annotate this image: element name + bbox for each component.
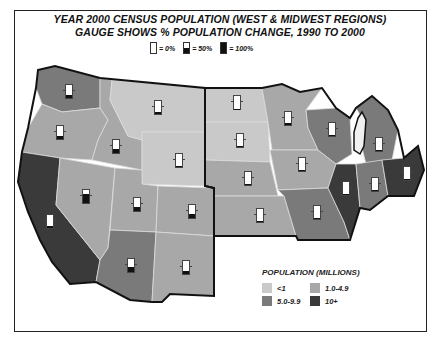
gauge-wy <box>175 153 183 168</box>
gauge-ne <box>244 171 252 186</box>
swatch-10plus <box>310 296 320 306</box>
gauge-nv <box>82 189 90 204</box>
state-ne <box>205 160 278 196</box>
gauge-ks <box>256 208 264 223</box>
legend-title: POPULATION (MILLIONS) <box>262 268 422 277</box>
swatch-5-9.9 <box>262 296 272 306</box>
gauge-in <box>371 177 379 192</box>
gauge-ca <box>46 214 54 229</box>
gauge-sd <box>236 133 244 148</box>
gauge-wi <box>328 122 336 137</box>
gauge-oh <box>403 166 411 181</box>
gauge-il <box>342 181 350 196</box>
state-co <box>156 186 214 236</box>
gauge-or <box>56 125 64 140</box>
gauge-id <box>112 139 120 154</box>
gauge-mt <box>154 100 162 115</box>
population-legend: POPULATION (MILLIONS) <1 1.0-4.9 5.0-9.9… <box>262 268 422 306</box>
legend-item-10plus: 10+ <box>310 296 370 306</box>
state-ks <box>214 196 296 236</box>
gauge-co <box>188 204 196 219</box>
gauge-mn <box>284 111 292 126</box>
gauge-ut <box>133 197 141 212</box>
gauge-az <box>127 258 135 273</box>
swatch-lt1 <box>262 283 272 293</box>
gauge-ia <box>298 157 306 172</box>
legend-item-lt1: <1 <box>262 283 310 293</box>
gauge-nm <box>182 260 190 275</box>
legend-item-1-4.9: 1.0-4.9 <box>310 283 370 293</box>
gauge-wa <box>65 84 73 99</box>
gauge-nd <box>233 95 241 110</box>
legend-item-5-9.9: 5.0-9.9 <box>262 296 310 306</box>
swatch-1-4.9 <box>310 283 320 293</box>
gauge-mi <box>375 137 383 152</box>
gauge-mo <box>313 205 321 220</box>
